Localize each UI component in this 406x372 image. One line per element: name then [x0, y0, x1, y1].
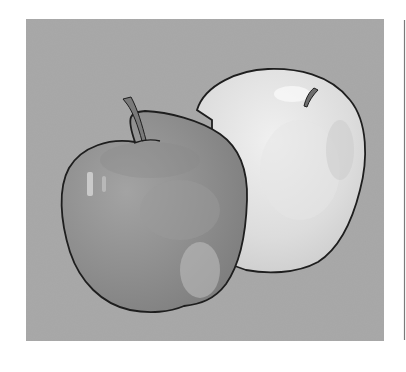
apple-illustration	[0, 0, 406, 372]
